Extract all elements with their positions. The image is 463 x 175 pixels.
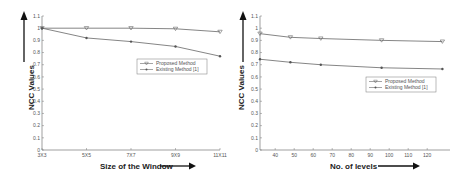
- star-marker: [85, 37, 87, 39]
- y-axis-label: NCC Values: [237, 65, 246, 110]
- x-tick-label: 70: [329, 152, 335, 158]
- x-axis-label: No. of levels: [330, 162, 378, 171]
- y-tick-label: 0.9: [251, 37, 258, 43]
- legend-label: Existing Method [1]: [385, 84, 428, 90]
- x-tick-label: 80: [348, 152, 354, 158]
- y-tick-label: 0.5: [251, 86, 258, 92]
- legend: Proposed MethodExisting Method [1]: [366, 77, 436, 92]
- x-tick-label: 110: [404, 152, 412, 158]
- x-tick-label: 50: [291, 152, 297, 158]
- y-axis-label: NCC Values: [27, 65, 36, 110]
- y-tick-label: 0.4: [251, 98, 258, 104]
- y-tick-label: 0.3: [251, 110, 258, 116]
- x-tick-label: 90: [367, 152, 373, 158]
- y-tick-label: 1.1: [251, 13, 258, 19]
- legend: Proposed MethodExisting Method [1]: [137, 59, 207, 74]
- y-tick-label: 0: [255, 147, 258, 153]
- x-tick-label: 3X3: [38, 152, 47, 158]
- y-tick-label: 0.7: [251, 61, 258, 67]
- y-tick-label: 0.2: [251, 122, 258, 128]
- y-tick-label: 0.3: [33, 110, 40, 116]
- series-line: [260, 59, 442, 69]
- ncc-vs-window-size-chart: 00.10.20.30.40.50.60.70.80.911.13X35X57X…: [21, 11, 228, 171]
- star-marker: [219, 55, 221, 57]
- y-tick-label: 1: [255, 25, 258, 31]
- ncc-vs-levels-chart: 00.10.20.30.40.50.60.70.80.911.140506070…: [237, 11, 450, 171]
- y-tick-label: 0.6: [251, 74, 258, 80]
- x-tick-label: 120: [423, 152, 432, 158]
- x-tick-label: 40: [272, 152, 278, 158]
- y-tick-label: 0.1: [251, 135, 258, 141]
- x-tick-label: 5X5: [82, 152, 91, 158]
- y-tick-label: 0.2: [33, 122, 40, 128]
- star-marker: [174, 45, 176, 47]
- star-marker: [320, 64, 322, 66]
- x-tick-label: 60: [310, 152, 316, 158]
- star-marker: [130, 40, 132, 42]
- x-tick-label: 11X11: [213, 152, 227, 158]
- series-line: [260, 34, 442, 42]
- star-marker: [380, 67, 382, 69]
- y-tick-label: 1: [37, 25, 40, 31]
- x-tick-label: 7X7: [127, 152, 136, 158]
- y-tick-label: 0.8: [251, 49, 258, 55]
- x-tick-label: 9X9: [171, 152, 180, 158]
- y-tick-label: 0.8: [33, 49, 40, 55]
- y-tick-label: 1.1: [33, 13, 40, 19]
- charts-figure: 00.10.20.30.40.50.60.70.80.911.13X35X57X…: [0, 0, 463, 175]
- star-marker: [289, 61, 291, 63]
- legend-label: Existing Method [1]: [156, 66, 199, 72]
- y-tick-label: 0.1: [33, 135, 40, 141]
- star-marker: [41, 27, 43, 29]
- y-tick-label: 0.9: [33, 37, 40, 43]
- star-marker: [441, 68, 443, 70]
- x-tick-label: 100: [385, 152, 394, 158]
- star-marker: [259, 58, 261, 60]
